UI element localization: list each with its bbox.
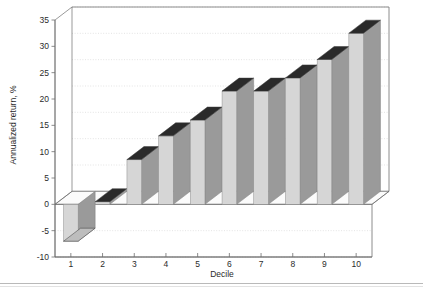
y-tick-label: 5 <box>44 173 49 183</box>
bar-front-face <box>159 136 174 204</box>
y-tick-label: -10 <box>37 252 50 262</box>
bar-front-face <box>222 91 237 204</box>
bar-side-face <box>300 65 317 204</box>
bar-group <box>190 107 222 204</box>
x-tick-label: 10 <box>351 259 361 269</box>
x-tick-label: 8 <box>290 259 295 269</box>
x-tick-label: 1 <box>68 259 73 269</box>
bar-front-face <box>254 91 269 204</box>
footer-divider <box>0 283 423 284</box>
x-tick-label: 9 <box>322 259 327 269</box>
left-wall <box>55 7 72 204</box>
y-tick-label: 20 <box>40 94 50 104</box>
x-axis-title: Decile <box>210 269 234 279</box>
x-tick-label: 2 <box>100 259 105 269</box>
x-tick-label: 3 <box>132 259 137 269</box>
x-tick-label: 5 <box>195 259 200 269</box>
y-tick-label: 10 <box>40 147 50 157</box>
y-tick-label: 0 <box>44 199 49 209</box>
y-tick-label: -5 <box>41 226 49 236</box>
y-tick-label: 15 <box>40 120 50 130</box>
chart-figure: -10-50510152025303512345678910 Annualize… <box>0 0 423 296</box>
bar-front-face <box>95 202 110 205</box>
bar-group <box>222 78 254 204</box>
bar-side-face <box>173 123 190 204</box>
y-tick-label: 25 <box>40 68 50 78</box>
bar-front-face <box>190 120 205 204</box>
bar-side-face <box>363 20 380 204</box>
x-tick-label: 4 <box>164 259 169 269</box>
bar-side-face <box>237 78 254 204</box>
bar-group <box>285 65 317 204</box>
y-axis-title: Annualized return, % <box>8 85 18 164</box>
x-tick-label: 7 <box>259 259 264 269</box>
bar-side-face <box>332 47 349 205</box>
bar-side-face <box>268 78 285 204</box>
bar-front-face <box>127 160 142 205</box>
bar-group <box>254 78 286 204</box>
bar-front-face <box>285 78 300 204</box>
bar-front-face <box>317 60 332 205</box>
footer-divider-secondary <box>0 286 423 287</box>
bar-group <box>159 123 191 204</box>
bar-chart: -10-50510152025303512345678910 Annualize… <box>0 0 423 296</box>
bar-front-face <box>349 33 364 204</box>
y-tick-label: 35 <box>40 15 50 25</box>
bar-group <box>317 47 349 205</box>
x-tick-label: 6 <box>227 259 232 269</box>
bar-side-face <box>205 107 222 204</box>
bar-group <box>349 20 381 204</box>
y-tick-label: 30 <box>40 41 50 51</box>
